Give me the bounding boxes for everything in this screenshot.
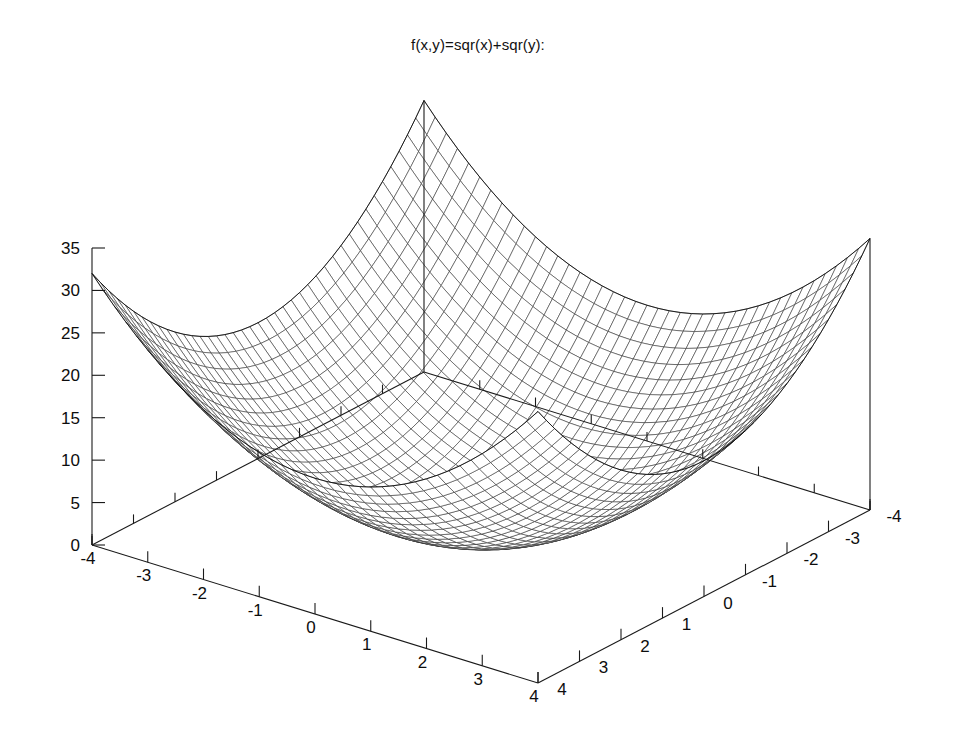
y-tick-label: 2	[640, 637, 649, 656]
z-tick-label: 5	[71, 494, 80, 513]
z-tick-label: 30	[61, 281, 80, 300]
z-tick-label: 25	[61, 324, 80, 343]
y-tick-label: -3	[845, 529, 860, 548]
z-tick-label: 35	[61, 239, 80, 258]
x-tick-label: 4	[529, 687, 538, 706]
mesh-cell	[100, 282, 119, 307]
y-tick-label: 0	[723, 594, 732, 613]
plot-canvas: 05101520253035-4-3-2-101234-4-3-2-101234	[0, 0, 956, 739]
x-tick-label: 0	[306, 618, 315, 637]
surface-mesh	[92, 100, 870, 550]
x-tick-label: -4	[80, 549, 95, 568]
z-tick-label: 0	[71, 536, 80, 555]
y-tick-label: -2	[803, 550, 818, 569]
y-tick-label: -4	[886, 507, 901, 526]
x-tick-label: 1	[362, 635, 371, 654]
x-tick-label: -2	[192, 584, 207, 603]
x-tick-label: 2	[418, 653, 427, 672]
y-tick-label: 1	[682, 615, 691, 634]
y-tick-label: 4	[557, 680, 566, 699]
y-tick-label: 3	[599, 658, 608, 677]
surface-plot-figure: f(x,y)=sqr(x)+sqr(y): 05101520253035-4-3…	[0, 0, 956, 739]
z-tick-label: 20	[61, 366, 80, 385]
y-tick-label: -1	[762, 572, 777, 591]
x-tick-label: -1	[248, 601, 263, 620]
z-tick-label: 10	[61, 451, 80, 470]
x-tick-label: 3	[474, 670, 483, 689]
z-tick-label: 15	[61, 409, 80, 428]
x-tick-label: -3	[136, 566, 151, 585]
